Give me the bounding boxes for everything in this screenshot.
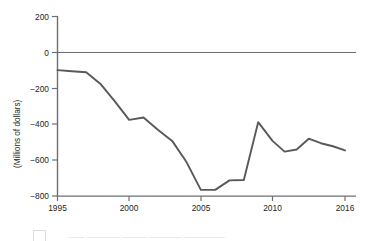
x-axis-ticks — [58, 196, 346, 201]
legend-swatch-icon — [33, 230, 46, 241]
x-axis-tick-labels: 1995 2000 2005 2010 2016 — [48, 203, 354, 213]
caption-fragment: —— ———— ——— ———— ————— — [68, 232, 318, 241]
x-tick-label-2000: 2000 — [120, 203, 139, 213]
y-axis-ticks — [52, 17, 58, 197]
data-series-line — [58, 70, 346, 190]
y-tick-label-minus600: −600 — [30, 155, 49, 165]
y-tick-label-minus800: −800 — [30, 191, 49, 201]
chart-figure: 200 0 −200 −400 −600 −800 (Millions of d… — [0, 0, 365, 241]
y-axis-tick-labels: 200 0 −200 −400 −600 −800 — [30, 12, 49, 201]
y-tick-label-minus200: −200 — [30, 84, 49, 94]
x-tick-label-2005: 2005 — [192, 203, 211, 213]
x-tick-label-2010: 2010 — [263, 203, 282, 213]
y-tick-label-minus400: −400 — [30, 119, 49, 129]
x-tick-label-2016: 2016 — [336, 203, 355, 213]
y-tick-label-0: 0 — [44, 48, 49, 58]
y-tick-label-200: 200 — [35, 12, 49, 22]
line-chart-plot: 200 0 −200 −400 −600 −800 (Millions of d… — [0, 0, 365, 241]
y-axis-title: (Millions of dollars) — [13, 99, 22, 168]
x-tick-label-1995: 1995 — [48, 203, 67, 213]
